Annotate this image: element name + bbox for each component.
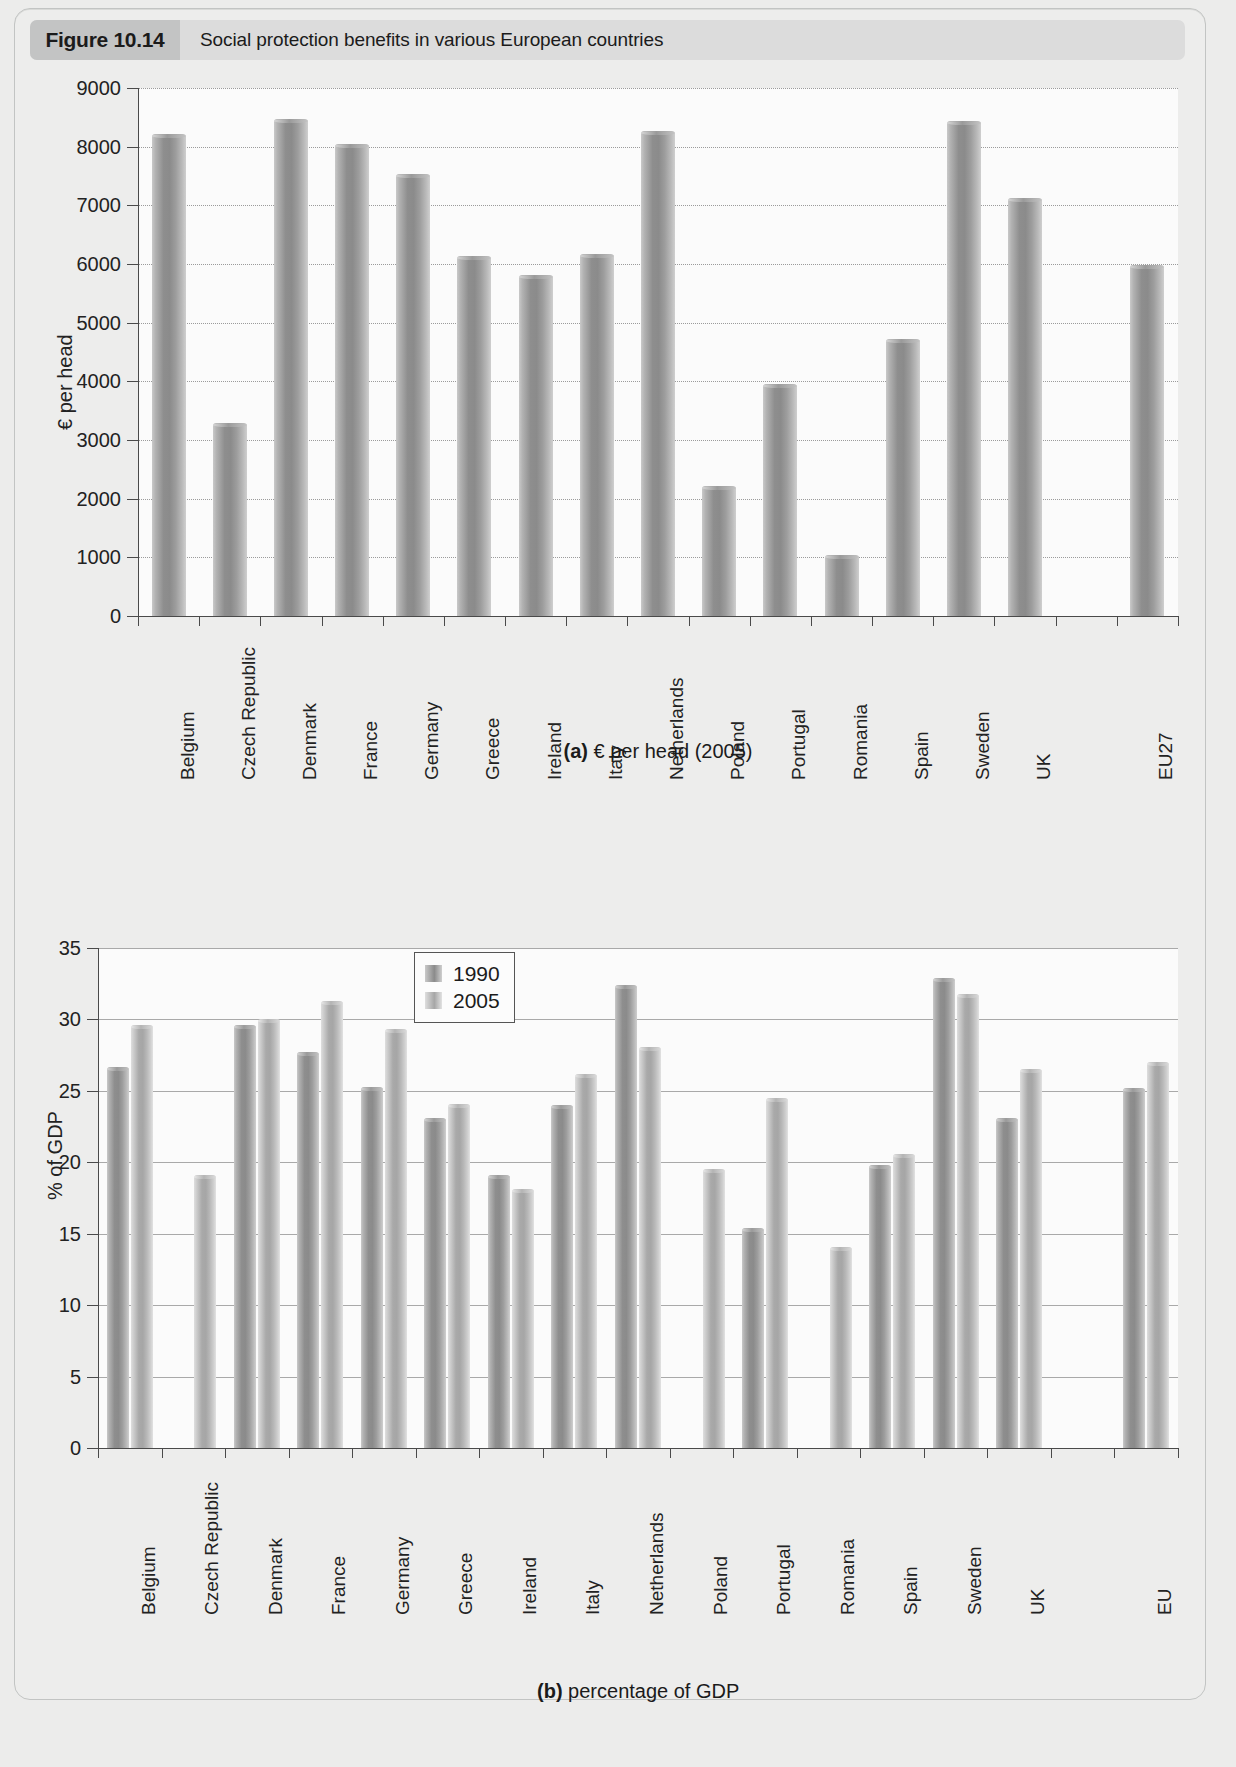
- y-tick-mark: [127, 323, 138, 324]
- y-tick-mark: [87, 1234, 98, 1235]
- x-axis: [138, 616, 1178, 617]
- x-tick-mark: [98, 1448, 99, 1458]
- bar: [641, 131, 675, 616]
- bar: [457, 256, 491, 616]
- x-tick-mark: [872, 616, 873, 626]
- y-tick-mark: [87, 948, 98, 949]
- bar: [580, 254, 614, 616]
- bar: [152, 134, 186, 616]
- bar: [424, 1118, 446, 1448]
- x-axis-label: Denmark: [265, 1538, 287, 1615]
- bar: [396, 174, 430, 616]
- bar: [947, 121, 981, 616]
- y-tick-label: 0: [110, 605, 121, 628]
- y-tick-label: 15: [59, 1222, 81, 1245]
- bar: [297, 1052, 319, 1448]
- gridline: [98, 948, 1178, 949]
- y-tick-label: 30: [59, 1008, 81, 1031]
- y-tick-label: 0: [70, 1437, 81, 1460]
- y-tick-label: 7000: [77, 194, 122, 217]
- x-tick-mark: [987, 1448, 988, 1458]
- bar: [830, 1247, 852, 1448]
- x-tick-mark: [670, 1448, 671, 1458]
- bar: [763, 384, 797, 616]
- x-tick-mark: [1178, 1448, 1179, 1458]
- figure-title-bar: Figure 10.14 Social protection benefits …: [30, 20, 1185, 60]
- y-tick-mark: [127, 205, 138, 206]
- x-axis-label: EU: [1154, 1589, 1176, 1615]
- x-axis-label: Netherlands: [646, 1513, 668, 1615]
- x-axis-label: Denmark: [299, 703, 321, 780]
- bar: [957, 994, 979, 1448]
- y-tick-mark: [87, 1162, 98, 1163]
- x-tick-mark: [733, 1448, 734, 1458]
- x-axis: [98, 1448, 1178, 1449]
- bar: [933, 978, 955, 1448]
- x-tick-mark: [689, 616, 690, 626]
- bar: [213, 423, 247, 616]
- legend-label-2005: 2005: [453, 989, 500, 1013]
- bar: [258, 1019, 280, 1448]
- y-tick-mark: [87, 1091, 98, 1092]
- x-tick-mark: [322, 616, 323, 626]
- bar: [519, 275, 553, 616]
- y-tick-label: 25: [59, 1079, 81, 1102]
- bar: [385, 1029, 407, 1448]
- x-axis-label: France: [360, 721, 382, 780]
- bar: [1020, 1069, 1042, 1448]
- x-tick-mark: [811, 616, 812, 626]
- x-axis-label: Germany: [421, 702, 443, 780]
- y-tick-mark: [87, 1448, 98, 1449]
- y-tick-label: 5000: [77, 311, 122, 334]
- caption-prefix: (a): [564, 740, 588, 762]
- x-tick-mark: [444, 616, 445, 626]
- x-tick-mark: [750, 616, 751, 626]
- bar: [1008, 198, 1042, 616]
- x-tick-mark: [1114, 1448, 1115, 1458]
- x-axis-label: Ireland: [544, 722, 566, 780]
- x-tick-mark: [1178, 616, 1179, 626]
- bar: [448, 1104, 470, 1448]
- x-tick-mark: [543, 1448, 544, 1458]
- x-axis-label: Poland: [710, 1556, 732, 1615]
- x-axis-label: Belgium: [138, 1546, 160, 1615]
- bar: [234, 1025, 256, 1448]
- bar: [615, 985, 637, 1448]
- x-axis-label: Czech Republic: [201, 1482, 223, 1615]
- x-axis-label: Greece: [455, 1553, 477, 1615]
- x-axis-label: Romania: [837, 1539, 859, 1615]
- y-tick-mark: [127, 440, 138, 441]
- bar: [869, 1165, 891, 1448]
- x-axis-label: Spain: [911, 731, 933, 780]
- y-tick-mark: [87, 1019, 98, 1020]
- x-tick-mark: [138, 616, 139, 626]
- bar: [512, 1189, 534, 1448]
- bar: [1147, 1062, 1169, 1448]
- gridline: [138, 88, 1178, 89]
- x-axis-label: Germany: [392, 1537, 414, 1615]
- legend-swatch-2005: [425, 992, 442, 1009]
- caption-text: € per head (2005): [588, 740, 753, 762]
- figure-number: Figure 10.14: [30, 20, 180, 60]
- bar: [766, 1098, 788, 1448]
- figure-title: Social protection benefits in various Eu…: [200, 29, 663, 51]
- y-tick-label: 6000: [77, 253, 122, 276]
- x-axis-label: Greece: [482, 718, 504, 780]
- page-background: Figure 10.14 Social protection benefits …: [0, 0, 1236, 1767]
- y-tick-label: 5: [70, 1365, 81, 1388]
- x-tick-mark: [924, 1448, 925, 1458]
- x-axis-label: Netherlands: [666, 678, 688, 780]
- bar: [893, 1154, 915, 1448]
- x-axis-label: Romania: [850, 704, 872, 780]
- bar: [996, 1118, 1018, 1448]
- y-tick-mark: [127, 616, 138, 617]
- y-tick-label: 2000: [77, 487, 122, 510]
- chart-caption: (a) € per head (2005): [564, 740, 753, 763]
- x-axis-label: Portugal: [773, 1544, 795, 1615]
- y-tick-label: 35: [59, 937, 81, 960]
- y-tick-mark: [87, 1305, 98, 1306]
- x-tick-mark: [505, 616, 506, 626]
- y-tick-label: 1000: [77, 546, 122, 569]
- y-axis: [98, 948, 99, 1449]
- legend-swatch-1990: [425, 965, 442, 982]
